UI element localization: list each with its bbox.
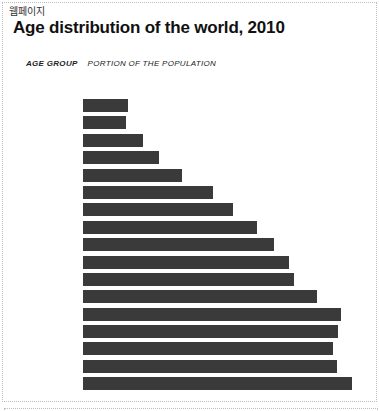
bar [83, 151, 159, 164]
age-group-column-header: AGE GROUP [26, 59, 78, 68]
column-headers: AGE GROUPPORTION OF THE POPULATION [26, 59, 216, 68]
bar [83, 325, 338, 338]
bar [83, 169, 182, 182]
portion-column-header: PORTION OF THE POPULATION [88, 59, 216, 68]
bar [83, 238, 274, 251]
bar [83, 273, 294, 286]
bar [83, 134, 143, 147]
bar [83, 256, 289, 269]
bar [83, 186, 213, 199]
bar [83, 221, 257, 234]
bar [83, 203, 233, 216]
bar [83, 360, 337, 373]
bar [83, 99, 128, 112]
embed-type-label: 웹페이지 [9, 5, 45, 18]
bar [83, 377, 352, 390]
bar [83, 116, 126, 129]
webpage-embed-block[interactable]: 웹페이지 Age distribution of the world, 2010… [2, 2, 377, 402]
bar-chart [83, 99, 352, 390]
chart-title: Age distribution of the world, 2010 [13, 18, 285, 38]
bar [83, 290, 317, 303]
bar [83, 342, 333, 355]
bar [83, 308, 341, 321]
